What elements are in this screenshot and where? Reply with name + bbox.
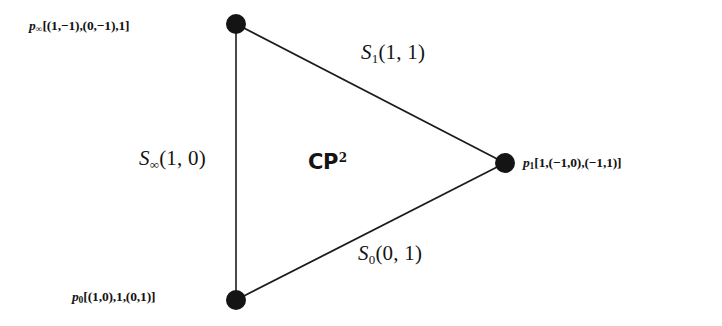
vertex-label-p-zero: p0[(1,0),1,(0,1)] <box>72 290 155 306</box>
edge-symbol-s-infinity: S <box>139 146 150 170</box>
edge-label-s-infinity: S∞(1, 0) <box>139 148 206 171</box>
edge-weight-s-zero: (0, 1) <box>375 241 422 265</box>
vertex-dot-p-one <box>495 153 515 173</box>
space-symbol: CP <box>308 150 338 174</box>
vertex-dot-p-infinity <box>226 14 246 34</box>
vertex-coords-p-one: [1,(−1,0),(−1,1)] <box>534 155 621 170</box>
vertex-symbol-p-zero: p <box>72 289 79 304</box>
vertex-label-p-one: p1[1,(−1,0),(−1,1)] <box>523 156 621 172</box>
vertex-symbol-p-infinity: p <box>29 18 36 33</box>
vertex-label-p-infinity: p∞[(1,−1),(0,−1),1] <box>29 19 129 35</box>
vertex-dot-p-zero <box>226 290 246 310</box>
vertex-symbol-p-one: p <box>523 155 530 170</box>
edge-weight-s-infinity: (1, 0) <box>159 146 206 170</box>
edge-symbol-s-one: S <box>361 40 372 64</box>
vertex-coords-p-zero: [(1,0),1,(0,1)] <box>83 289 155 304</box>
space-label-cp2: CP2 <box>308 152 347 173</box>
edge-weight-s-one: (1, 1) <box>378 40 425 64</box>
edge-symbol-s-zero: S <box>358 241 369 265</box>
edge-line-s-zero <box>236 163 505 300</box>
figure-canvas: p∞[(1,−1),(0,−1),1] p0[(1,0),1,(0,1)] p1… <box>0 0 722 326</box>
edge-subscript-s-infinity: ∞ <box>150 157 159 172</box>
edge-label-s-one: S1(1, 1) <box>361 42 425 65</box>
space-exponent: 2 <box>339 151 347 165</box>
edge-label-s-zero: S0(0, 1) <box>358 243 422 266</box>
vertex-coords-p-infinity: [(1,−1),(0,−1),1] <box>42 18 129 33</box>
